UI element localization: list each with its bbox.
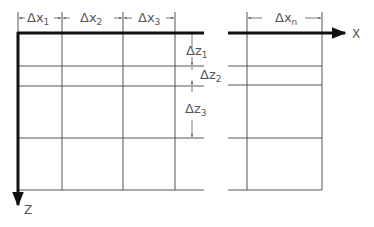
dz3-label: Δz3: [185, 101, 206, 118]
finite-difference-grid-diagram: X Z Δx1 Δx2 Δx3 Δxn Δz1 Δz2 Δz3: [0, 0, 374, 227]
left-grid: [18, 33, 204, 190]
right-grid: [228, 12, 322, 190]
dx3-label: Δx3: [138, 10, 160, 27]
dxn-label: Δxn: [275, 10, 297, 27]
dx2-label: Δx2: [80, 10, 102, 27]
x-axis-label: X: [352, 27, 360, 41]
axes: [17, 32, 345, 205]
dx1-label: Δx1: [27, 10, 49, 27]
z-axis-label: Z: [24, 203, 32, 217]
dz2-label: Δz2: [200, 67, 221, 84]
dz1-label: Δz1: [186, 43, 207, 60]
